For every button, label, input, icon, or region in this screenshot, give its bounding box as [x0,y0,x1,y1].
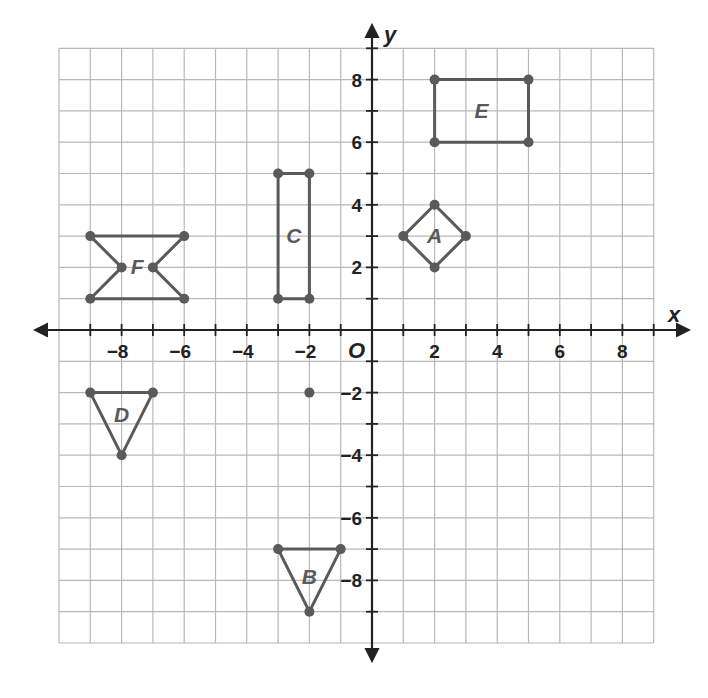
x-axis-label: x [667,302,681,327]
vertex-point [304,607,314,617]
y-tick-label: −8 [340,570,362,591]
x-tick-label: 8 [617,341,628,362]
vertex-point [461,231,471,241]
x-tick-label: 2 [429,341,440,362]
vertex-point [273,169,283,179]
vertex-point [304,169,314,179]
y-axis-label: y [383,22,398,47]
labels: −8−6−4−224688642−2−4−6−8Oxy [107,22,681,591]
shape-label: A [426,224,442,247]
vertex-point [430,262,440,272]
vertex-point [524,137,534,147]
shape-label: B [302,565,317,588]
coordinate-plane: ABCDEF −8−6−4−224688642−2−4−6−8Oxy [0,0,708,698]
shape-label: E [475,99,490,122]
vertex-point [117,450,127,460]
vertex-point [273,294,283,304]
shape-c: C [273,169,314,304]
plotted-point [304,388,314,398]
vertex-point [430,200,440,210]
y-tick-label: −6 [340,508,362,529]
vertex-point [85,388,95,398]
vertex-point [179,231,189,241]
vertex-point [148,262,158,272]
y-tick-label: 8 [351,70,362,91]
vertex-point [117,262,127,272]
x-tick-label: −2 [295,341,317,362]
vertex-point [85,231,95,241]
x-tick-label: 6 [555,341,566,362]
vertex-point [85,294,95,304]
vertex-point [273,544,283,554]
vertex-point [398,231,408,241]
vertex-point [179,294,189,304]
shape-label: F [131,255,145,278]
y-tick-label: −4 [340,445,362,466]
origin-label: O [348,338,365,363]
shape-label: C [286,224,302,247]
y-tick-label: 2 [351,257,362,278]
shape-label: D [114,403,129,426]
vertex-point [430,137,440,147]
y-tick-label: 4 [351,195,362,216]
x-tick-label: −6 [169,341,191,362]
vertex-point [336,544,346,554]
y-tick-label: 6 [351,132,362,153]
x-tick-label: −4 [232,341,254,362]
x-tick-label: −8 [107,341,129,362]
vertex-point [430,75,440,85]
points [304,388,314,398]
vertex-point [148,388,158,398]
vertex-point [304,294,314,304]
x-tick-label: 4 [492,341,503,362]
y-tick-label: −2 [340,383,362,404]
vertex-point [524,75,534,85]
